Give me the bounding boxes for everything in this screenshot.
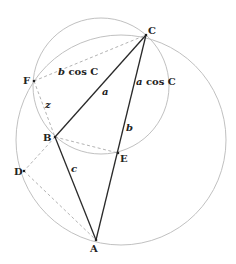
segment-da xyxy=(24,171,96,240)
label-side-c-text: c xyxy=(71,163,77,174)
geometry-diagram: C F B E D A b cos C a cos C a b c z xyxy=(0,0,236,264)
point-label-b: B xyxy=(43,132,51,143)
side-c-ab xyxy=(55,137,96,240)
label-segment-z-text: z xyxy=(44,99,51,110)
segment-be xyxy=(55,137,118,153)
point-a-dot xyxy=(95,239,98,242)
label-side-c: c xyxy=(71,163,77,174)
label-side-a-text: a xyxy=(102,86,108,97)
label-a-cos-c-rest: cos C xyxy=(142,76,175,87)
point-label-c: C xyxy=(148,25,156,36)
point-e-dot xyxy=(117,152,120,155)
point-label-a: A xyxy=(89,243,98,254)
label-side-b-text: b xyxy=(126,122,133,133)
point-label-e: E xyxy=(120,153,128,164)
label-side-b: b xyxy=(126,122,133,133)
label-a-cos-c: a cos C xyxy=(136,76,176,87)
side-b-ca xyxy=(96,35,146,240)
label-b-cos-c-var: b xyxy=(58,66,65,77)
point-f-dot xyxy=(33,80,36,83)
point-label-f: F xyxy=(23,75,30,86)
label-b-cos-c: b cos C xyxy=(58,66,98,77)
label-segment-z: z xyxy=(44,99,51,110)
label-side-a: a xyxy=(102,86,108,97)
point-c-dot xyxy=(145,34,148,37)
point-d-dot xyxy=(23,170,26,173)
label-b-cos-c-rest: cos C xyxy=(65,66,98,77)
point-b-dot xyxy=(54,136,57,139)
point-label-d: D xyxy=(14,166,23,177)
